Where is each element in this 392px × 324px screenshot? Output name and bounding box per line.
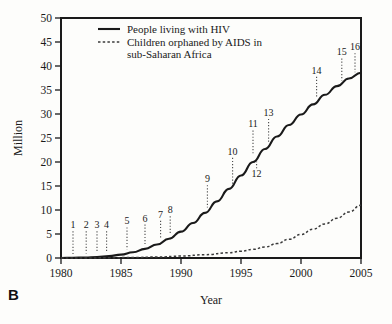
y-tick-label: 40 (41, 60, 53, 72)
figure-panel-b: 0510152025303540455019801985199019952000… (0, 0, 392, 324)
annotation-label-3: 3 (95, 219, 100, 230)
annotation-label-2: 2 (84, 219, 89, 230)
annotation-label-7: 7 (158, 209, 163, 220)
chart-canvas: 0510152025303540455019801985199019952000… (0, 0, 392, 324)
annotation-label-9: 9 (205, 173, 210, 184)
y-axis-title: Million (11, 120, 25, 156)
annotation-label-14: 14 (312, 65, 322, 76)
y-tick-label: 0 (46, 252, 52, 264)
annotation-label-6: 6 (143, 213, 148, 224)
y-tick-label: 50 (41, 12, 53, 24)
y-tick-label: 15 (41, 180, 53, 192)
annotation-label-12: 12 (252, 168, 262, 179)
legend-label-1: People living with HIV (127, 23, 230, 35)
y-tick-label: 5 (46, 228, 52, 240)
y-tick-label: 10 (41, 204, 53, 216)
annotation-label-8: 8 (168, 204, 173, 215)
y-tick-label: 25 (41, 132, 53, 144)
x-tick-label: 1985 (110, 267, 133, 279)
y-tick-label: 20 (41, 156, 53, 168)
annotation-label-15: 15 (337, 46, 347, 57)
annotation-label-13: 13 (264, 107, 274, 118)
x-tick-label: 2005 (350, 267, 373, 279)
y-tick-label: 35 (41, 84, 53, 96)
y-tick-label: 30 (41, 108, 53, 120)
x-tick-label: 1990 (170, 267, 193, 279)
annotation-label-4: 4 (104, 219, 109, 230)
panel-label: B (8, 286, 19, 303)
x-tick-label: 2000 (290, 267, 313, 279)
x-tick-label: 1980 (50, 267, 73, 279)
annotation-label-11: 11 (248, 118, 258, 129)
legend-label-2: sub-Saharan Africa (127, 48, 212, 60)
x-axis-title: Year (200, 293, 222, 307)
annotation-label-10: 10 (228, 146, 238, 157)
series-line-2 (61, 205, 361, 258)
y-tick-label: 45 (41, 36, 53, 48)
annotation-label-16: 16 (350, 41, 360, 52)
annotation-label-1: 1 (71, 219, 76, 230)
legend-label-2: Children orphaned by AIDS in (127, 36, 263, 48)
annotation-label-5: 5 (125, 215, 130, 226)
x-tick-label: 1995 (230, 267, 253, 279)
